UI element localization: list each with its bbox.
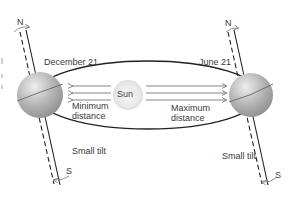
diagram-graphic (0, 0, 292, 198)
radiation-arrows-left (72, 86, 111, 100)
sun-label: Sun (117, 89, 133, 99)
december-label: December 21 (44, 57, 98, 67)
edge-marks (1, 58, 3, 89)
radiation-arrows-right (146, 86, 226, 100)
small-tilt-label-left: Small tilt (72, 146, 106, 156)
small-tilt-label-right: Small tilt (222, 151, 256, 161)
south-label-right: S (275, 170, 281, 180)
north-label-left: N (17, 17, 24, 27)
earth-june-icon (229, 73, 273, 117)
max-distance-label-1: Maximum (171, 103, 210, 113)
orbit-diagram: N December 21 N June 21 Sun Minimum dist… (0, 0, 292, 198)
north-label-right: N (225, 18, 232, 28)
min-distance-label-1: Minimum (72, 101, 109, 111)
orbit-path (36, 61, 260, 129)
june-label: June 21 (199, 57, 231, 67)
earth-december-icon (17, 72, 63, 118)
max-distance-label-2: distance (171, 113, 205, 123)
south-label-left: S (66, 166, 72, 176)
min-distance-label-2: distance (72, 111, 106, 121)
